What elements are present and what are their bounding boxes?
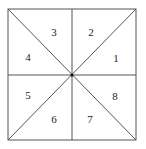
region-label-7: 7 [87,114,93,125]
region-label-1: 1 [113,53,119,64]
square-diagram [0,0,146,149]
region-label-8: 8 [112,91,118,102]
region-label-6: 6 [51,114,57,125]
region-label-3: 3 [51,27,57,38]
center-point [70,73,73,76]
region-label-5: 5 [25,90,31,101]
region-label-4: 4 [25,52,31,63]
region-label-2: 2 [88,27,94,38]
